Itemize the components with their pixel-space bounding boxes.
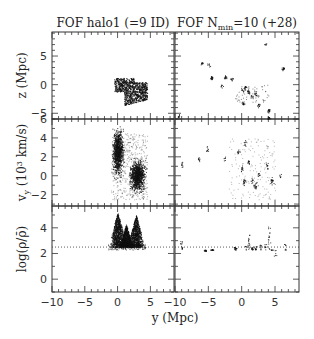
x-tick-label: 5 [272,296,279,309]
y-tick-label: −2 [31,189,47,202]
x-tick-label: 0 [238,296,245,309]
panel-frame-r1-c1 [175,119,299,206]
x-tick-label: −5 [200,296,216,309]
x-tick-label: −5 [77,296,93,309]
x-tick-label: −10 [40,296,63,309]
y-tick-label: 0 [40,273,47,286]
y-tick-label: 4 [40,222,47,235]
y-axis-label-row0: z (Mpc) [15,52,29,98]
figure: −505−20246024−10−505−10−505FOF halo1 (=9… [0,0,314,339]
panel-frame-r2-c0 [52,206,174,292]
column-title-right: FOF Nmin=10 (+28) [177,16,297,32]
panel-frame-r0-c1 [175,32,299,119]
x-tick-label: 5 [147,296,154,309]
x-tick-label: 0 [114,296,121,309]
x-axis-label: y (Mpc) [151,311,199,325]
y-tick-label: 0 [40,79,47,92]
y-tick-label: 5 [40,50,47,63]
y-tick-label: 4 [40,132,47,145]
y-tick-label: 0 [40,170,47,183]
y-tick-label: 2 [40,247,47,260]
scatter-points [108,43,287,256]
y-tick-label: 6 [40,113,47,126]
panel-frame-r0-c0 [52,32,174,119]
y-tick-label: 2 [40,151,47,164]
y-axis-label-row2: log(ρ/ρ̄) [15,226,29,272]
y-axis-label-row1: vy (103 km/s) [15,124,31,203]
column-title-left: FOF halo1 (=9 ID) [57,16,170,30]
x-tick-label: −10 [163,296,186,309]
